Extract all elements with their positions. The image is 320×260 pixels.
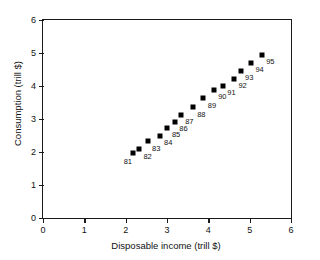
x-axis-tick-label: 5 — [247, 226, 252, 235]
y-axis-title: Consumption (trill $) — [12, 5, 23, 203]
data-point-label: 89 — [208, 102, 216, 110]
data-point-label: 87 — [185, 118, 193, 126]
x-axis-tick — [84, 218, 85, 223]
scatter-chart-figure: 0123456 0123456 818283848586878889909192… — [0, 0, 320, 260]
plot-area: 0123456 0123456 818283848586878889909192… — [42, 19, 292, 219]
data-point-marker — [201, 96, 206, 101]
x-axis-tick-label: 2 — [123, 226, 128, 235]
data-point-label: 93 — [245, 74, 253, 82]
y-axis-tick-label: 3 — [31, 115, 36, 124]
x-axis-tick-label: 6 — [288, 226, 293, 235]
data-point-label: 86 — [179, 125, 187, 133]
x-axis-tick — [43, 218, 44, 223]
y-axis-tick — [39, 20, 44, 21]
y-axis-tick — [39, 185, 44, 186]
data-point-label: 90 — [218, 93, 226, 101]
x-axis-tick — [126, 218, 127, 223]
data-point-marker — [130, 150, 135, 155]
x-axis-tick-label: 0 — [40, 226, 45, 235]
y-axis-tick — [39, 119, 44, 120]
y-axis-tick-label: 5 — [31, 49, 36, 58]
data-point-marker — [165, 125, 170, 130]
data-point-marker — [220, 83, 225, 88]
data-point-marker — [190, 105, 195, 110]
data-point-marker — [248, 60, 253, 65]
data-point-label: 81 — [124, 158, 132, 166]
data-point-label: 82 — [143, 153, 151, 161]
y-axis-tick-label: 6 — [31, 16, 36, 25]
data-point-label: 91 — [227, 89, 235, 97]
data-point-label: 95 — [266, 58, 274, 66]
y-axis-tick-label: 1 — [31, 181, 36, 190]
data-point-marker — [172, 119, 177, 124]
x-axis-title: Disposable income (trill $) — [42, 240, 290, 251]
y-axis-tick-label: 2 — [31, 148, 36, 157]
x-axis-tick — [208, 218, 209, 223]
data-point-marker — [211, 87, 216, 92]
y-axis-tick — [39, 152, 44, 153]
x-axis-tick-label: 1 — [82, 226, 87, 235]
x-axis-tick-label: 4 — [206, 226, 211, 235]
data-point-marker — [145, 139, 150, 144]
data-point-label: 83 — [152, 145, 160, 153]
y-axis-tick-label: 4 — [31, 82, 36, 91]
x-axis-tick — [167, 218, 168, 223]
y-axis-tick-label: 0 — [31, 214, 36, 223]
y-axis-tick — [39, 53, 44, 54]
data-point-marker — [157, 133, 162, 138]
x-axis-tick — [250, 218, 251, 223]
x-axis-tick-label: 3 — [164, 226, 169, 235]
data-point-label: 84 — [164, 139, 172, 147]
data-point-label: 92 — [238, 82, 246, 90]
data-point-marker — [238, 68, 243, 73]
y-axis-tick — [39, 86, 44, 87]
data-point-marker — [231, 76, 236, 81]
data-point-marker — [178, 112, 183, 117]
data-point-marker — [259, 52, 264, 57]
data-point-marker — [136, 147, 141, 152]
data-point-label: 88 — [197, 111, 205, 119]
x-axis-tick — [291, 218, 292, 223]
data-point-label: 94 — [255, 66, 263, 74]
